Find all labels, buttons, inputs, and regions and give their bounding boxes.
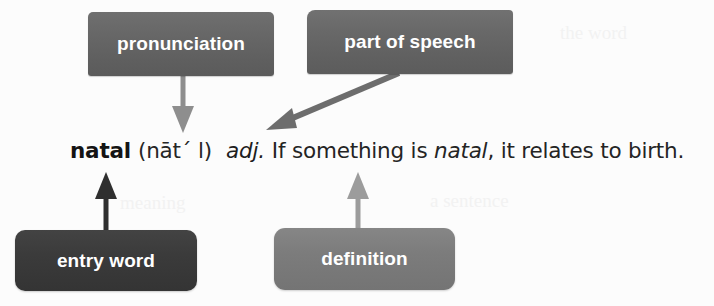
callout-definition: definition <box>274 228 455 290</box>
scan-artifact: meaning <box>120 192 185 214</box>
callout-entry-word: entry word <box>15 230 197 291</box>
diagram-canvas: the word a sentence meaning pronunciatio… <box>0 0 714 306</box>
scan-artifact: the word <box>560 22 627 44</box>
entry-definition-before: If something is <box>272 138 434 163</box>
entry-definition-after: , it relates to birth. <box>487 138 684 163</box>
definition-arrow-icon <box>347 172 369 228</box>
part-of-speech-arrow-icon <box>266 73 399 130</box>
callout-pronunciation: pronunciation <box>88 12 274 76</box>
callout-part-of-speech-label: part of speech <box>344 31 475 53</box>
callout-pronunciation-label: pronunciation <box>117 33 245 55</box>
callout-definition-label: definition <box>321 248 407 270</box>
callout-part-of-speech: part of speech <box>307 10 513 74</box>
scan-artifact: a sentence <box>430 190 509 212</box>
entry-word-arrow-icon <box>95 172 117 230</box>
entry-part-of-speech: adj. <box>226 138 265 163</box>
entry-pronunciation: (nāt´ l) <box>138 138 212 163</box>
entry-definition-italic: natal <box>434 138 487 163</box>
pronunciation-arrow-icon <box>172 76 194 133</box>
callout-entry-word-label: entry word <box>57 250 155 272</box>
entry-headword: natal <box>70 138 131 163</box>
dictionary-entry-line: natal(nāt´ l)adj.If something is natal, … <box>70 138 684 163</box>
